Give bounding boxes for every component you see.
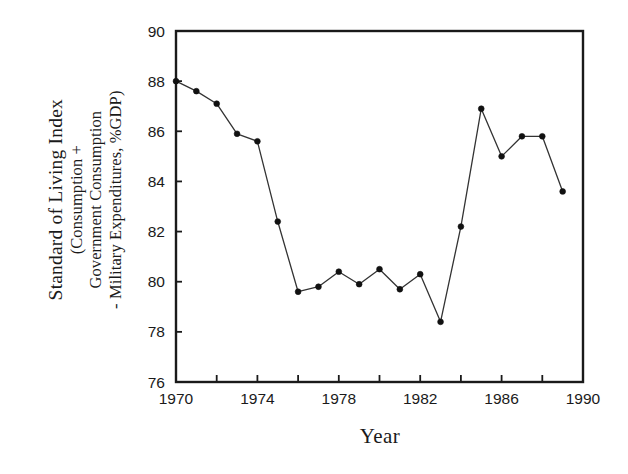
data-point	[173, 78, 179, 84]
data-point	[234, 131, 240, 137]
y-tick-label: 78	[148, 323, 165, 340]
y-tick-label: 86	[148, 123, 165, 140]
data-point	[417, 271, 423, 277]
data-point	[560, 189, 566, 195]
x-tick-label: 1990	[566, 390, 601, 407]
x-axis-title: Year	[176, 424, 584, 449]
data-point	[295, 289, 301, 295]
line-chart-plot: 7678808284868890 19701974197819821986199…	[0, 0, 628, 474]
y-tick-label: 90	[148, 23, 166, 40]
y-tick-label: 76	[148, 374, 165, 391]
data-point	[438, 319, 444, 325]
y-tick-label: 82	[148, 223, 165, 240]
x-axis-ticks: 197019741978198219861990	[159, 375, 601, 407]
data-point	[458, 224, 464, 230]
data-point	[275, 219, 281, 225]
x-tick-label: 1974	[240, 390, 275, 407]
x-tick-label: 1970	[159, 390, 194, 407]
y-tick-label: 84	[148, 173, 166, 190]
chart-figure: Standard of Living Index (Consumption + …	[0, 0, 628, 474]
data-point	[316, 284, 322, 290]
x-tick-label: 1982	[403, 390, 437, 407]
data-point	[193, 88, 199, 94]
data-point	[356, 281, 362, 287]
data-point	[519, 133, 525, 139]
data-point	[255, 138, 261, 144]
x-tick-label: 1986	[484, 390, 518, 407]
y-tick-label: 80	[148, 273, 166, 290]
data-point	[499, 153, 505, 159]
y-tick-label: 88	[148, 73, 165, 90]
data-point	[397, 286, 403, 292]
data-point	[539, 133, 545, 139]
x-tick-label: 1978	[322, 390, 356, 407]
plot-frame	[176, 31, 583, 382]
data-point	[478, 106, 484, 112]
data-point	[377, 266, 383, 272]
data-point	[214, 101, 220, 107]
data-point	[336, 269, 342, 275]
data-series	[173, 78, 565, 324]
